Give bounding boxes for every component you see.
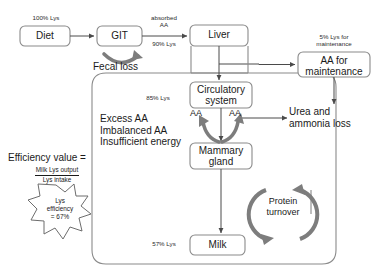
tag-milk-percent: 57% Lys: [142, 240, 186, 247]
tag-absorbed-percent: 90% Lys: [140, 40, 188, 47]
thick-arrow-aa-into-mammary: [203, 122, 219, 142]
tag-absorbed-aa: absorbed AA: [140, 14, 188, 28]
tag-intake-percent: 100% Lys: [21, 14, 71, 21]
label-aa-right: AA: [229, 108, 241, 118]
node-box-git: [97, 26, 142, 46]
efficiency-denominator: Lys intake: [22, 176, 92, 185]
thick-arrowhead-fecal-loss: [132, 50, 143, 60]
tag-circulatory-percent: 85% Lys: [136, 94, 180, 101]
label-limiting-factors: Excess AA Imbalanced AA Insufficient ene…: [100, 113, 181, 148]
thick-arrowhead-turnover-bottom: [261, 234, 274, 245]
efficiency-fraction: Milk Lys output Lys intake: [22, 166, 92, 184]
node-box-milk: [190, 235, 245, 255]
label-fecal-loss: Fecal loss: [93, 61, 138, 73]
efficiency-numerator: Milk Lys output: [35, 166, 79, 176]
label-efficiency-value: Efficiency value =: [8, 152, 86, 163]
node-box-diet: [20, 26, 70, 46]
thick-arrow-aa-out-of-mammary: [222, 122, 238, 142]
node-box-aa-maintenance: [298, 52, 370, 77]
node-box-mammary: [190, 143, 252, 169]
arrow-liver-to-maintenance: [219, 46, 295, 65]
diagram-canvas: Diet GIT Liver AA for maintenance Circul…: [0, 0, 385, 273]
node-box-circulatory: [190, 82, 252, 108]
tag-maintenance-percent: 5% Lys for maintenance: [297, 33, 371, 47]
thick-arrowhead-turnover-top: [292, 184, 305, 195]
label-urea-ammonia-loss: Urea and ammonia loss: [289, 106, 351, 129]
node-box-liver: [190, 25, 248, 46]
label-aa-left: AA: [190, 108, 202, 118]
label-protein-turnover: Protein turnover: [248, 196, 318, 217]
label-lys-efficiency-badge: Lys efficiency = 67%: [39, 197, 81, 221]
